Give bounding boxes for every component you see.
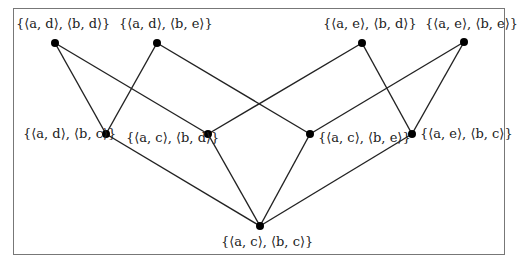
node-ac_be (306, 130, 314, 138)
node-label-ae-be: {⟨a, e⟩, ⟨b, e⟩} (425, 16, 517, 32)
edge-ad_be-ad_bc (106, 43, 157, 134)
edge-ad_be-ac_be (157, 43, 310, 134)
node-ad_be (153, 39, 161, 47)
edge-ae_be-ae_bc (412, 42, 464, 134)
edge-ae_bd-ac_bd (208, 43, 362, 134)
node-label-ad-bd: {⟨a, d⟩, ⟨b, d⟩} (16, 16, 110, 32)
node-label-ad-be: {⟨a, d⟩, ⟨b, e⟩} (119, 16, 213, 32)
node-label-ac-bc: {⟨a, c⟩, ⟨b, c⟩} (221, 234, 313, 250)
edge-ad_bc-ac_bc (106, 134, 260, 226)
edge-ae_be-ac_be (310, 42, 464, 134)
node-ae_be (460, 38, 468, 46)
edge-ad_bd-ad_bc (55, 43, 106, 134)
node-label-ae-bc: {⟨a, e⟩, ⟨b, c⟩} (420, 126, 513, 142)
node-ad_bd (51, 39, 59, 47)
node-ae_bd (358, 39, 366, 47)
edge-ae_bc-ac_bc (260, 134, 412, 226)
edge-ac_bd-ac_bc (208, 134, 260, 226)
node-label-ae-bd: {⟨a, e⟩, ⟨b, d⟩} (323, 16, 417, 32)
edge-ac_be-ac_bc (260, 134, 310, 226)
node-label-ac-bd: {⟨a, c⟩, ⟨b, d⟩} (126, 130, 219, 146)
node-label-ad-bc: {⟨a, d⟩, ⟨b, c⟩} (23, 126, 116, 142)
node-label-ac-be: {⟨a, c⟩, ⟨b, e⟩} (318, 130, 411, 146)
node-ac_bc (256, 222, 264, 230)
